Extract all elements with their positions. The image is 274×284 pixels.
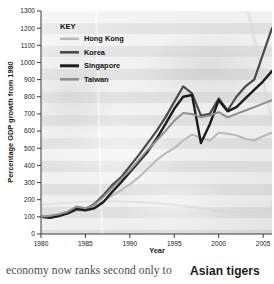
y-tick-label: 1300 xyxy=(20,7,35,14)
x-tick-label: 2005 xyxy=(256,240,271,247)
y-tick-label: 800 xyxy=(24,93,35,100)
y-tick-label: 100 xyxy=(24,213,35,220)
y-tick-label: 600 xyxy=(24,127,35,134)
section-heading: Asian tigers xyxy=(190,264,260,278)
y-tick-label: 1100 xyxy=(21,42,36,49)
x-axis-title: Year xyxy=(149,246,165,255)
plot-background xyxy=(25,11,274,240)
x-tick-label: 1990 xyxy=(123,240,138,247)
y-tick-label: 900 xyxy=(24,76,35,83)
y-tick-label: 500 xyxy=(24,145,35,152)
x-tick-label: 2000 xyxy=(211,240,226,247)
y-axis-tick-labels: 0100200300400500600700800900100011001200… xyxy=(20,7,35,237)
y-axis-title: Percentage GDP growth from 1980 xyxy=(6,61,15,182)
page-root: 0100200300400500600700800900100011001200… xyxy=(0,0,274,284)
x-axis-ticks xyxy=(41,234,263,238)
x-tick-label: 1980 xyxy=(34,240,49,247)
x-tick-label: 1985 xyxy=(78,240,93,247)
y-tick-label: 1200 xyxy=(20,25,35,32)
y-tick-label: 200 xyxy=(24,196,35,203)
body-paragraph-text: economy now ranks second only to xyxy=(6,264,172,276)
legend-label-korea: Korea xyxy=(84,48,106,57)
y-tick-label: 700 xyxy=(24,110,35,117)
legend-label-singapore: Singapore xyxy=(84,61,120,70)
y-tick-label: 300 xyxy=(24,179,35,186)
x-tick-label: 1995 xyxy=(167,240,182,247)
legend-title: KEY xyxy=(60,22,76,31)
legend-label-hong-kong: Hong Kong xyxy=(84,34,124,43)
y-tick-label: 1000 xyxy=(20,59,35,66)
y-tick-label: 400 xyxy=(24,162,35,169)
y-tick-label: 0 xyxy=(31,230,35,237)
legend-label-taiwan: Taiwan xyxy=(84,75,109,84)
chart-figure: 0100200300400500600700800900100011001200… xyxy=(0,0,274,256)
caption-row: economy now ranks second only to Asian t… xyxy=(0,262,274,284)
y-axis-ticks xyxy=(37,11,41,234)
gdp-growth-line-chart: 0100200300400500600700800900100011001200… xyxy=(0,0,274,256)
